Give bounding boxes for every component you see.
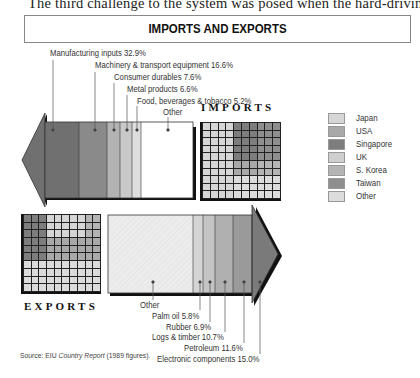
grid-cell xyxy=(242,123,249,130)
grid-cell xyxy=(39,238,46,245)
grid-cell xyxy=(265,169,272,176)
legend-swatch xyxy=(328,178,345,189)
grid-cell xyxy=(55,223,62,230)
grid-cell xyxy=(47,238,54,245)
exports-heading: EXPORTS xyxy=(24,300,98,312)
grid-cell xyxy=(273,191,280,198)
grid-cell xyxy=(219,169,226,176)
grid-cell xyxy=(273,138,280,145)
grid-cell xyxy=(62,253,69,260)
grid-cell xyxy=(39,277,46,284)
legend-swatch xyxy=(328,126,345,137)
grid-cell xyxy=(62,215,69,222)
grid-cell xyxy=(86,269,93,276)
legend-label: Other xyxy=(356,191,376,201)
legend-label: Japan xyxy=(356,113,378,123)
grid-cell xyxy=(226,131,233,138)
grid-cell xyxy=(24,230,31,237)
import-label-consumer: Consumer durables 7.6% xyxy=(114,72,201,82)
grid-cell xyxy=(93,230,100,237)
grid-cell xyxy=(242,146,249,153)
import-label-other: Other xyxy=(163,107,182,117)
grid-cell xyxy=(273,146,280,153)
grid-cell xyxy=(70,269,77,276)
grid-cell xyxy=(32,223,39,230)
grid-cell xyxy=(242,176,249,183)
import-seg-consumer xyxy=(107,122,120,198)
grid-cell xyxy=(47,246,54,253)
grid-cell xyxy=(86,253,93,260)
legend-item-uk: UK xyxy=(328,151,368,163)
legend-swatch xyxy=(328,139,345,150)
export-label-other: Other xyxy=(140,300,159,310)
import-seg-metal xyxy=(120,122,132,198)
grid-cell xyxy=(47,261,54,268)
grid-cell xyxy=(211,153,218,160)
grid-cell xyxy=(234,153,241,160)
grid-cell xyxy=(265,138,272,145)
legend-item-taiwan: Taiwan xyxy=(328,177,383,189)
legend-label: UK xyxy=(356,152,367,162)
grid-cell xyxy=(78,277,85,284)
grid-cell xyxy=(86,284,93,291)
grid-cell xyxy=(93,253,100,260)
grid-cell xyxy=(70,215,77,222)
grid-cell xyxy=(39,269,46,276)
imports-heading: IMPORTS xyxy=(201,101,274,113)
legend-item-other: Other xyxy=(328,190,378,202)
legend-label: Singapore xyxy=(356,139,392,149)
grid-cell xyxy=(258,131,265,138)
grid-cell xyxy=(47,253,54,260)
grid-cell xyxy=(39,215,46,222)
grid-cell xyxy=(55,238,62,245)
grid-cell xyxy=(24,246,31,253)
legend-swatch xyxy=(328,191,345,202)
grid-cell xyxy=(211,176,218,183)
source-prefix: Source: xyxy=(20,352,43,359)
grid-cell xyxy=(226,184,233,191)
export-label-rubber: Rubber 6.9% xyxy=(166,322,211,332)
grid-cell xyxy=(39,223,46,230)
grid-cell xyxy=(226,146,233,153)
grid-cell xyxy=(32,284,39,291)
grid-cell xyxy=(258,191,265,198)
grid-cell xyxy=(258,176,265,183)
source-note: Source: EIU Country Report (1989 figures… xyxy=(20,352,150,359)
grid-cell xyxy=(55,284,62,291)
grid-cell xyxy=(258,146,265,153)
grid-cell xyxy=(226,123,233,130)
grid-cell xyxy=(226,169,233,176)
grid-cell xyxy=(258,184,265,191)
grid-cell xyxy=(219,153,226,160)
grid-cell xyxy=(24,261,31,268)
legend: Japan USA Singapore UK S. Korea Taiwan O… xyxy=(328,112,420,202)
grid-cell xyxy=(39,253,46,260)
grid-cell xyxy=(93,261,100,268)
grid-cell xyxy=(203,123,210,130)
grid-cell xyxy=(226,161,233,168)
grid-cell xyxy=(234,184,241,191)
grid-cell xyxy=(24,223,31,230)
grid-cell xyxy=(265,131,272,138)
grid-cell xyxy=(78,223,85,230)
grid-cell xyxy=(273,131,280,138)
grid-cell xyxy=(211,161,218,168)
import-label-manufacturing: Manufacturing inputs 32.9% xyxy=(50,48,146,58)
grid-cell xyxy=(62,269,69,276)
grid-cell xyxy=(211,123,218,130)
grid-cell xyxy=(78,269,85,276)
grid-cell xyxy=(203,138,210,145)
legend-label: Taiwan xyxy=(356,178,381,188)
grid-cell xyxy=(211,169,218,176)
grid-cell xyxy=(70,284,77,291)
grid-cell xyxy=(86,246,93,253)
grid-cell xyxy=(258,169,265,176)
grid-cell xyxy=(265,161,272,168)
grid-cell xyxy=(273,161,280,168)
import-seg-food xyxy=(132,122,141,198)
grid-cell xyxy=(93,246,100,253)
grid-cell xyxy=(250,191,257,198)
source-org: EIU xyxy=(45,352,56,359)
grid-cell xyxy=(219,138,226,145)
grid-cell xyxy=(39,284,46,291)
